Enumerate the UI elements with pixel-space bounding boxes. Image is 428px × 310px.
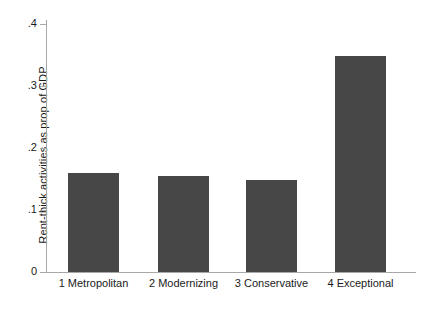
y-axis-tick xyxy=(40,210,46,211)
bar xyxy=(158,176,209,272)
y-axis-tick xyxy=(40,24,46,25)
bar xyxy=(335,56,386,272)
y-axis-title: Rent-thick activities as prop of GDP xyxy=(32,0,54,310)
y-axis-tick xyxy=(40,86,46,87)
y-axis-tick-label: .3 xyxy=(20,79,37,91)
y-axis-tick-label: .4 xyxy=(20,17,37,29)
y-axis-tick-label: .1 xyxy=(20,203,37,215)
x-axis-category-label: 4 Exceptional xyxy=(301,277,421,289)
y-axis-tick-label: 0 xyxy=(20,265,37,277)
y-axis-title-container: Rent-thick activities as prop of GDP xyxy=(10,0,32,310)
y-axis-tick xyxy=(40,272,46,273)
bar-chart: Rent-thick activities as prop of GDP 0.1… xyxy=(0,0,428,310)
y-axis-line xyxy=(46,20,47,273)
x-axis-line xyxy=(46,272,416,273)
y-axis-tick xyxy=(40,148,46,149)
bar xyxy=(246,180,297,272)
bar xyxy=(68,173,119,272)
y-axis-tick-label: .2 xyxy=(20,141,37,153)
